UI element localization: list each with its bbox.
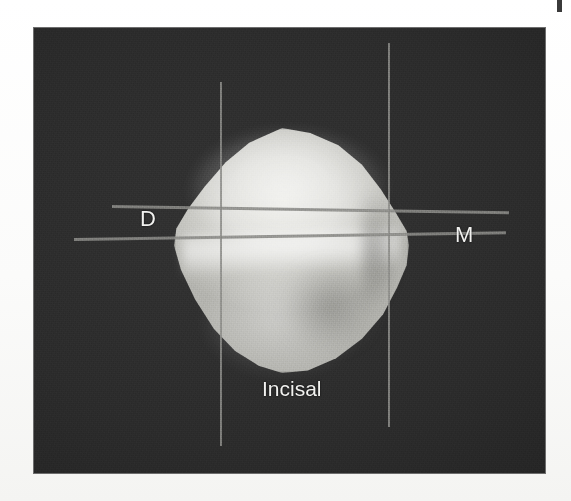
- figure-page: D M Incisal: [0, 0, 571, 501]
- vertical-distal-line: [220, 82, 222, 446]
- tooth-specimen: [174, 128, 409, 373]
- tooth-photograph: D M Incisal: [34, 28, 545, 473]
- label-distal: D: [140, 208, 156, 230]
- label-incisal: Incisal: [262, 378, 322, 399]
- label-mesial: M: [455, 224, 473, 246]
- page-edge-mark: [557, 0, 562, 12]
